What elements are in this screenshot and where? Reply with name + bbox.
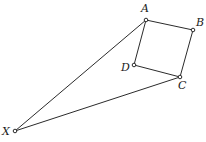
segment-cd: [134, 65, 180, 77]
vertex-point-d: [132, 63, 136, 67]
segment-da: [134, 20, 146, 65]
segment-xa: [15, 20, 146, 131]
vertex-label-d: D: [121, 62, 130, 73]
vertex-label-x: X: [2, 126, 10, 137]
vertex-point-x: [13, 129, 17, 133]
vertices-group: [13, 18, 195, 133]
vertex-label-b: B: [196, 17, 204, 28]
segments-group: [15, 20, 193, 131]
vertex-label-a: A: [141, 3, 149, 14]
vertex-point-a: [144, 18, 148, 22]
geometry-canvas: [0, 0, 206, 142]
vertex-label-c: C: [178, 80, 186, 91]
segment-xc: [15, 77, 180, 131]
segment-bc: [180, 30, 193, 77]
segment-ab: [146, 20, 193, 30]
vertex-point-b: [191, 28, 195, 32]
geometry-figure: ABCDX: [0, 0, 206, 142]
